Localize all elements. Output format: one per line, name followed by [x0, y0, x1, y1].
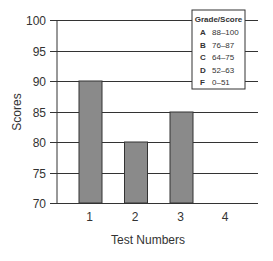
x-tick-label: 1: [86, 210, 93, 224]
legend-grade: A: [200, 28, 206, 37]
y-axis-ticks: 707580859095100: [26, 14, 46, 211]
legend-range: 64–75: [212, 53, 235, 62]
x-tick-label: 3: [177, 210, 184, 224]
x-tick-label: 2: [132, 210, 139, 224]
legend-grade: B: [200, 41, 206, 50]
legend-entry: F0–51: [200, 78, 230, 87]
y-tick-label: 95: [33, 45, 47, 59]
y-tick-label: 100: [26, 14, 46, 28]
x-axis-title: Test Numbers: [111, 233, 185, 247]
legend-entry: D52–63: [200, 66, 235, 75]
legend-range: 76–87: [212, 41, 235, 50]
legend-range: 52–63: [212, 66, 235, 75]
legend-grade: F: [200, 78, 205, 87]
bar-test-2: [125, 142, 148, 203]
y-tick-label: 75: [33, 167, 47, 181]
legend-entry: B76–87: [200, 41, 235, 50]
bar-test-1: [79, 81, 102, 203]
legend-range: 0–51: [212, 78, 230, 87]
legend-range: 88–100: [212, 28, 239, 37]
x-tick-label: 4: [222, 210, 229, 224]
legend-title: Grade/Score: [195, 15, 243, 24]
y-tick-label: 70: [33, 197, 47, 211]
bars: [79, 81, 193, 203]
y-tick-label: 80: [33, 136, 47, 150]
legend: Grade/Score A88–100B76–87C64–75D52–63F0–…: [192, 10, 245, 89]
bar-chart: 707580859095100 1234 Test Numbers Scores…: [0, 0, 273, 261]
legend-grade: C: [200, 53, 206, 62]
y-tick-label: 85: [33, 106, 47, 120]
y-tick-label: 90: [33, 75, 47, 89]
legend-grade: D: [200, 66, 206, 75]
bar-test-3: [170, 112, 193, 203]
x-axis-ticks: 1234: [86, 210, 229, 224]
y-axis-title: Scores: [10, 93, 24, 130]
legend-entry: C64–75: [200, 53, 235, 62]
